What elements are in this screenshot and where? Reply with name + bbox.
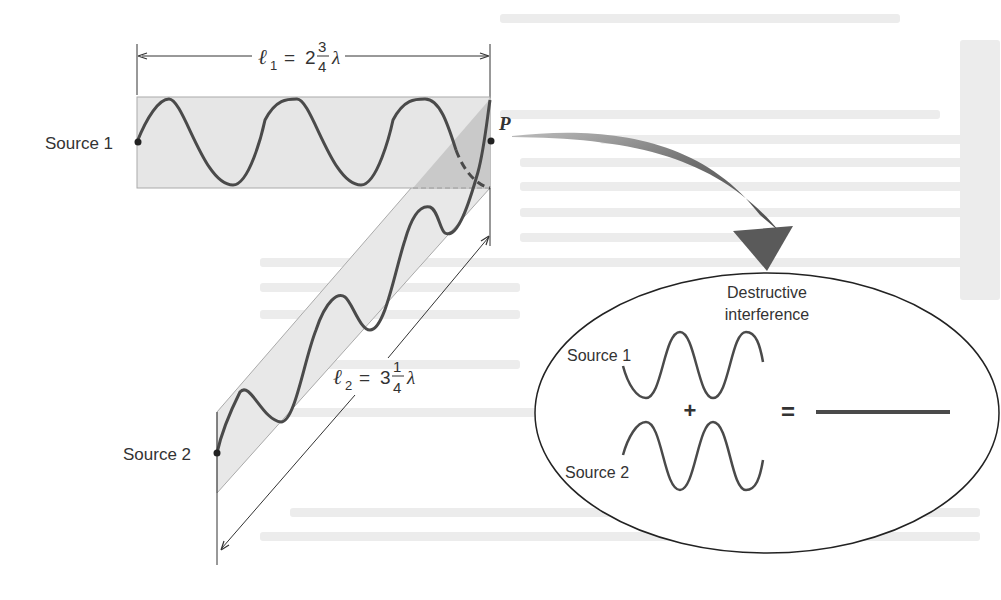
svg-text:1: 1	[270, 58, 277, 73]
svg-text:λ: λ	[406, 367, 415, 388]
path1-length-formula: ℓ 1 = 2 3 4 λ	[258, 38, 340, 75]
svg-text:2: 2	[345, 378, 352, 393]
svg-text:ℓ: ℓ	[333, 365, 342, 389]
svg-text:ℓ: ℓ	[258, 45, 267, 69]
point-p	[488, 138, 495, 145]
inset-source2-label: Source 2	[565, 464, 629, 481]
svg-text:3: 3	[380, 367, 391, 388]
curved-arrow-icon	[512, 133, 793, 271]
svg-text:4: 4	[318, 58, 326, 75]
source2-point	[214, 450, 221, 457]
inset-title-line2: interference	[725, 306, 810, 323]
svg-text:2: 2	[305, 47, 316, 68]
source2-label: Source 2	[123, 445, 191, 464]
inset-title-line1: Destructive	[727, 284, 807, 301]
inset-equals-sign: =	[781, 398, 795, 425]
path2-length-formula: ℓ 2 = 3 1 4 λ	[333, 358, 415, 396]
inset-source1-label: Source 1	[567, 347, 631, 364]
source1-point	[135, 139, 142, 146]
point-p-label: P	[498, 113, 511, 134]
inset-plus-sign: +	[684, 398, 697, 423]
svg-text:=: =	[284, 47, 295, 68]
svg-text:1: 1	[393, 358, 401, 375]
source1-label: Source 1	[45, 134, 113, 153]
svg-text:λ: λ	[331, 47, 340, 68]
interference-diagram: Source 1 Source 2 P ℓ 1 = 2 3 4 λ ℓ 2 = …	[0, 0, 1001, 600]
svg-text:4: 4	[393, 379, 401, 396]
svg-text:=: =	[359, 367, 370, 388]
svg-text:3: 3	[318, 38, 326, 55]
